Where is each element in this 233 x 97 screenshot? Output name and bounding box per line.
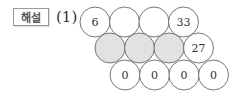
shaded-circle: [154, 33, 184, 63]
shaded-circle: [125, 33, 155, 63]
circle-cell: [110, 7, 140, 37]
circle-cell: 27: [184, 33, 214, 63]
circle-cell: 33: [169, 7, 199, 37]
circle-value: 6: [92, 16, 99, 29]
circle-cell: [154, 33, 184, 63]
circle-value: 0: [151, 69, 158, 82]
circle: [139, 7, 169, 37]
circle-cell: 6: [80, 7, 110, 37]
shaded-circle: [95, 33, 125, 63]
circle-diagram: 633270000: [0, 0, 233, 97]
circle-cell: 0: [110, 60, 140, 90]
circle-cell: [139, 7, 169, 37]
circle-cell: 0: [199, 60, 229, 90]
circle-cell: 0: [140, 60, 170, 90]
circle-cell: 0: [169, 60, 199, 90]
circle-value: 33: [177, 16, 191, 29]
circle-cell: [95, 33, 125, 63]
circle-value: 0: [210, 69, 217, 82]
circle-value: 0: [181, 69, 188, 82]
circle: [110, 7, 140, 37]
circle-value: 0: [122, 69, 129, 82]
circle-value: 27: [192, 42, 206, 55]
circle-cell: [125, 33, 155, 63]
